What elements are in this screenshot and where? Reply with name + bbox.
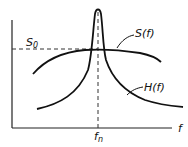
s0-label: S0 — [26, 36, 38, 50]
h-curve-label: H(f) — [144, 81, 165, 94]
resonance-diagram: S0 S(f) H(f) fn f — [0, 0, 188, 147]
s-curve-label: S(f) — [135, 27, 154, 40]
s-curve — [33, 50, 161, 74]
s-curve-pointer — [117, 35, 134, 48]
fn-label: fn — [94, 130, 103, 144]
h-curve — [37, 10, 183, 110]
x-axis-label: f — [178, 122, 184, 135]
